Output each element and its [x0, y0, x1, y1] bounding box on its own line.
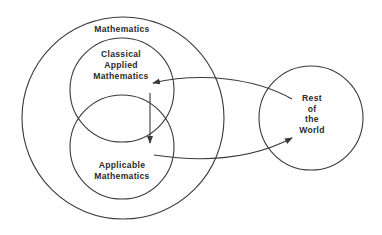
classical-label-line-3: Mathematics [93, 71, 148, 81]
world-label-line-2: of [308, 104, 317, 114]
classical-label-line-2: Applied [104, 60, 138, 70]
arrow-applicable-to-world [154, 138, 292, 159]
classical-label-line-1: Classical [101, 49, 141, 59]
applicable-label-line-1: Applicable [99, 160, 145, 170]
world-label-line-1: Rest [302, 93, 322, 103]
diagram-canvas: Mathematics Classical Applied Mathematic… [0, 0, 382, 235]
mathematics-label: Mathematics [94, 24, 149, 34]
applicable-label-line-2: Mathematics [94, 171, 149, 181]
mathematics-circle [22, 17, 224, 219]
world-label-line-3: the [305, 114, 319, 124]
applicable-circle [70, 95, 174, 199]
world-label-line-4: World [299, 125, 325, 135]
